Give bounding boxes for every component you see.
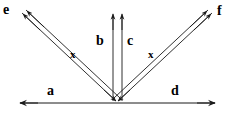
label-ray-f: f [217,4,222,18]
reflected-ray-pair-right [114,10,212,101]
label-normal-b: b [96,34,104,48]
label-angle-x-right: x [148,49,154,60]
label-surface-a: a [47,84,54,98]
ray-f-arrow-inner [190,11,207,27]
ray-e-arrow-outer [23,14,40,30]
ray-e-arrow-vertex [104,90,116,101]
label-normal-c: c [127,34,133,48]
label-surface-d: d [171,84,179,98]
ray-f-arrow-outer [194,14,211,30]
ray-e-arrow-inner [27,11,44,27]
ray-f-arrow-vertex [118,90,130,101]
diagram-canvas [0,0,236,116]
ray-diagram-figure: e f b c a d x x [0,0,236,116]
normal-lines-group [113,14,122,101]
label-ray-e: e [3,3,9,17]
label-angle-x-left: x [70,49,76,60]
